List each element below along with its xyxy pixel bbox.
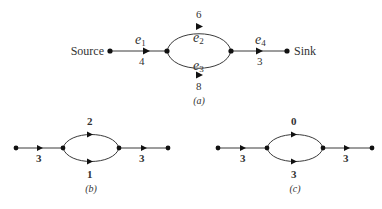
edge-c1-flow: 3: [240, 152, 246, 164]
edge-e4-name: e4: [255, 32, 266, 48]
arrow-c4-icon: [344, 145, 350, 151]
junction-node-right-b: [117, 146, 122, 151]
junction-node-left-b: [61, 146, 66, 151]
edge-c3-flow: 3: [291, 168, 297, 180]
edge-b4-flow: 3: [139, 152, 145, 164]
caption-a: (a): [193, 95, 205, 107]
arrow-b3-icon: [87, 159, 93, 165]
arrow-c1-icon: [240, 145, 246, 151]
diagram-c: 3 0 3 3 (c): [216, 115, 375, 195]
diagram-a: Source Sink e1 4 6 e2 e3 8 e4 3 (a): [71, 8, 316, 107]
arrow-c3-icon: [291, 159, 297, 165]
edge-b2: [63, 135, 119, 149]
junction-node-left: [164, 48, 169, 53]
edge-e2-capacity: 6: [196, 8, 202, 20]
sink-node: [284, 48, 289, 53]
arrow-e2-icon: [196, 23, 203, 30]
arrow-e1-icon: [143, 48, 150, 55]
sink-node-b: [166, 146, 171, 151]
edge-c3: [267, 148, 323, 162]
sink-label: Sink: [294, 44, 316, 58]
source-node: [107, 48, 112, 53]
caption-c: (c): [289, 183, 301, 195]
junction-node-right-c: [321, 146, 326, 151]
arrow-c2-icon: [291, 132, 297, 138]
edge-b3: [63, 148, 119, 162]
edge-e4-capacity: 3: [257, 55, 263, 67]
edge-c2-flow: 0: [291, 115, 297, 127]
edge-e3-capacity: 8: [196, 80, 202, 92]
edge-c4-flow: 3: [343, 152, 349, 164]
flow-network-figure: Source Sink e1 4 6 e2 e3 8 e4 3 (a) 3 2 …: [0, 0, 382, 209]
edge-b3-flow: 1: [87, 168, 93, 180]
arrow-b4-icon: [141, 145, 147, 151]
arrow-b2-icon: [87, 132, 93, 138]
source-node-c: [216, 146, 221, 151]
junction-node-right: [228, 48, 233, 53]
source-node-b: [14, 146, 19, 151]
edge-e1-name: e1: [135, 32, 146, 48]
edge-e3-name: e3: [193, 58, 204, 74]
arrow-b1-icon: [37, 145, 43, 151]
edge-e2-name: e2: [193, 30, 204, 46]
edge-c2: [267, 135, 323, 149]
edge-b2-flow: 2: [87, 115, 93, 127]
caption-b: (b): [85, 183, 97, 195]
sink-node-c: [370, 146, 375, 151]
source-label: Source: [71, 44, 104, 58]
edge-b1-flow: 3: [36, 152, 42, 164]
arrow-e4-icon: [256, 48, 263, 55]
junction-node-left-c: [265, 146, 270, 151]
diagram-b: 3 2 1 3 (b): [14, 115, 171, 195]
edge-e1-capacity: 4: [139, 55, 145, 67]
